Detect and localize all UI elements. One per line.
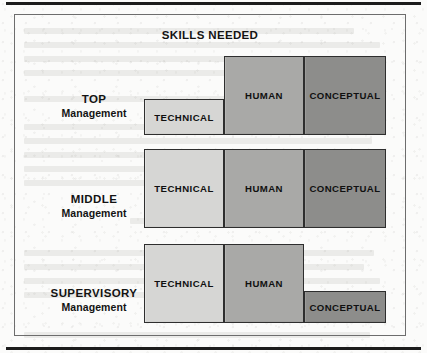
- row-label-top: TOP Management: [31, 93, 157, 119]
- row-label-middle: MIDDLE Management: [31, 193, 157, 219]
- skill-box-middle-technical[interactable]: TECHNICAL: [144, 149, 224, 228]
- scanned-page: SKILLS NEEDED TOP Management TECHNICAL H…: [0, 0, 427, 353]
- skill-label-supervisory-technical: TECHNICAL: [154, 278, 213, 289]
- row-level-top: TOP: [31, 93, 157, 107]
- row-level-supervisory: SUPERVISORY: [31, 287, 157, 301]
- row-label-supervisory: SUPERVISORY Management: [31, 287, 157, 313]
- skill-box-middle-human[interactable]: HUMAN: [224, 149, 304, 228]
- row-suffix-supervisory: Management: [31, 301, 157, 313]
- skill-box-top-technical[interactable]: TECHNICAL: [144, 99, 224, 135]
- skill-box-middle-conceptual[interactable]: CONCEPTUAL: [304, 149, 386, 228]
- figure-title: SKILLS NEEDED: [15, 29, 405, 41]
- row-level-middle: MIDDLE: [31, 193, 157, 207]
- top-rule: [6, 2, 421, 5]
- skill-box-supervisory-technical[interactable]: TECHNICAL: [144, 244, 224, 323]
- skill-box-supervisory-conceptual[interactable]: CONCEPTUAL: [304, 291, 386, 323]
- skill-label-top-human: HUMAN: [245, 90, 283, 101]
- bottom-rule: [6, 347, 421, 350]
- skill-box-supervisory-human[interactable]: HUMAN: [224, 244, 304, 323]
- skill-label-supervisory-conceptual: CONCEPTUAL: [309, 302, 380, 313]
- skill-box-top-human[interactable]: HUMAN: [224, 56, 304, 135]
- skill-label-middle-technical: TECHNICAL: [154, 183, 213, 194]
- row-suffix-top: Management: [31, 107, 157, 119]
- skill-label-middle-human: HUMAN: [245, 183, 283, 194]
- row-suffix-middle: Management: [31, 207, 157, 219]
- skill-label-top-conceptual: CONCEPTUAL: [309, 90, 380, 101]
- skill-label-supervisory-human: HUMAN: [245, 278, 283, 289]
- skill-label-top-technical: TECHNICAL: [154, 112, 213, 123]
- skill-box-top-conceptual[interactable]: CONCEPTUAL: [304, 56, 386, 135]
- skill-label-middle-conceptual: CONCEPTUAL: [309, 183, 380, 194]
- figure-frame: SKILLS NEEDED TOP Management TECHNICAL H…: [14, 14, 406, 336]
